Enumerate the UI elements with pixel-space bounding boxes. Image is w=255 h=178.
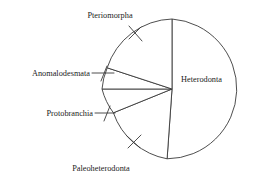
pie-label-protobranchia: Protobranchia bbox=[46, 109, 93, 118]
pie-label-pteriomorpha: Pteriomorpha bbox=[87, 11, 132, 20]
pie-label-anomalodesmata: Anomalodesmata bbox=[32, 69, 90, 78]
pie-label-paleoheterodonta: Paleoheterodonta bbox=[72, 164, 130, 173]
pie-chart-figure: Heterodonta Pteriomorpha Anomalodesmata … bbox=[0, 0, 255, 178]
pie-slice-heterodonta[interactable] bbox=[167, 19, 237, 159]
pie-label-heterodonta: Heterodonta bbox=[181, 75, 222, 84]
leader-tick-protobranchia bbox=[104, 106, 110, 121]
pie-slices bbox=[102, 19, 237, 159]
